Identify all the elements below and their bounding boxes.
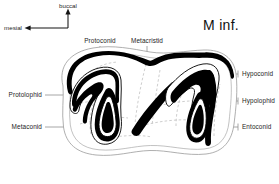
figure-title: M inf.	[203, 17, 239, 33]
label-metacristid: Metacristid	[131, 37, 163, 44]
tooth-diagram-figure: buccal mesial M inf.	[0, 0, 279, 184]
mesial-arrowhead-icon	[25, 25, 31, 30]
label-entoconid: Entoconid	[242, 123, 272, 130]
diagram-canvas: buccal mesial M inf.	[0, 0, 279, 184]
label-protoconid: Protoconid	[84, 37, 116, 44]
label-protolophid: Protolophid	[9, 91, 43, 99]
label-metaconid: Metaconid	[12, 123, 43, 130]
label-hypoconid: Hypoconid	[242, 70, 273, 78]
mesial-label: mesial	[4, 24, 22, 31]
buccal-arrowhead-icon	[65, 9, 70, 15]
orientation-compass: buccal mesial	[4, 2, 77, 32]
label-hypolophid: Hypolophid	[242, 97, 275, 105]
buccal-label: buccal	[59, 2, 77, 9]
